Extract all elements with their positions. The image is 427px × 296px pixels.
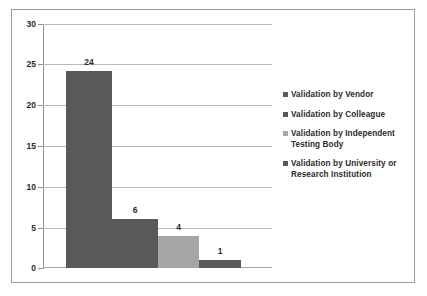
legend-label-validation-by-colleague: Validation by Colleague <box>291 110 385 121</box>
y-tick-label-20: 20 <box>10 101 36 110</box>
y-tick-label-30-wrap: 30 <box>8 20 36 29</box>
y-tick-label-25: 25 <box>10 60 36 69</box>
y-tick-label-10: 10 <box>10 183 36 192</box>
y-tick-label-20-wrap: 20 <box>8 101 36 110</box>
y-tick-label-5: 5 <box>10 224 36 233</box>
bar-validation-by-university-or-research-institution[interactable] <box>199 260 241 268</box>
bar-validation-by-independent-testing-body[interactable] <box>158 236 199 268</box>
legend-label-validation-by-university-or-research-institution: Validation by University or Research Ins… <box>291 159 411 180</box>
y-tick-label-5-wrap: 5 <box>8 224 36 233</box>
y-tick-label-25-wrap: 25 <box>8 60 36 69</box>
y-tick-label-15-wrap: 15 <box>8 142 36 151</box>
legend-item-validation-by-colleague[interactable]: Validation by Colleague <box>283 110 411 121</box>
y-tick-label-15: 15 <box>10 142 36 151</box>
chart-legend: Validation by Vendor Validation by Colle… <box>283 90 411 189</box>
legend-label-validation-by-independent-testing-body: Validation by Independent Testing Body <box>291 129 411 150</box>
bar-label-validation-by-colleague: 6 <box>112 206 158 215</box>
bar-label-validation-by-vendor: 24 <box>66 58 112 67</box>
bar-validation-by-vendor[interactable] <box>66 71 112 268</box>
legend-item-validation-by-university-or-research-institution[interactable]: Validation by University or Research Ins… <box>283 159 411 180</box>
legend-label-validation-by-vendor: Validation by Vendor <box>291 90 374 101</box>
bar-label-validation-by-independent-testing-body: 4 <box>158 223 199 232</box>
y-tick-mark-0 <box>38 268 43 269</box>
bar-label-validation-by-university-or-research-institution: 1 <box>199 247 241 256</box>
gridline-30 <box>43 24 272 25</box>
legend-item-validation-by-independent-testing-body[interactable]: Validation by Independent Testing Body <box>283 129 411 150</box>
y-tick-label-0-wrap: 0 <box>8 264 36 273</box>
y-tick-label-10-wrap: 10 <box>8 183 36 192</box>
bar-chart-figure: 30 25 20 15 10 5 0 24 6 <box>0 0 427 296</box>
bar-validation-by-colleague[interactable] <box>112 219 158 268</box>
legend-swatch-icon-university-or-research-institution <box>283 161 288 166</box>
y-tick-label-30: 30 <box>10 20 36 29</box>
y-tick-label-0: 0 <box>10 264 36 273</box>
legend-swatch-icon-colleague <box>283 112 288 117</box>
legend-swatch-icon-independent-testing-body <box>283 131 288 136</box>
legend-swatch-icon-vendor <box>283 92 288 97</box>
legend-item-validation-by-vendor[interactable]: Validation by Vendor <box>283 90 411 101</box>
plot-area: 24 6 4 1 <box>43 24 272 268</box>
